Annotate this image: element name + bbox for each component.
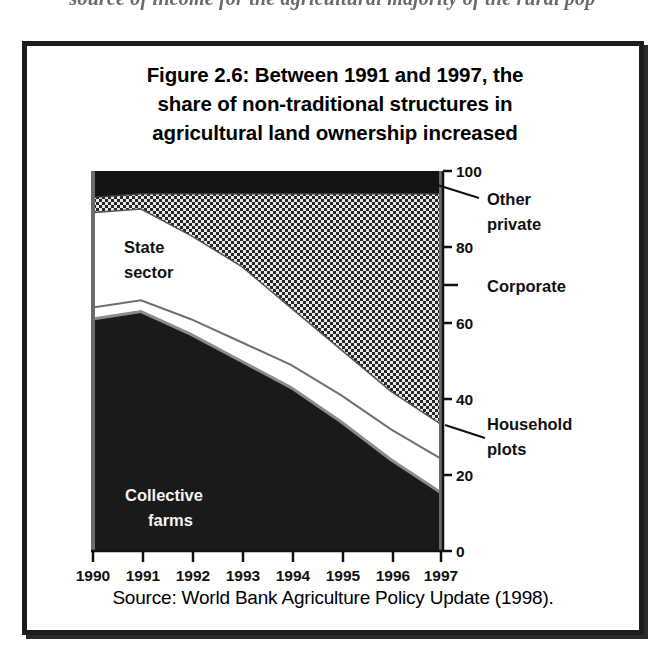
label-state-sector-line-1: State <box>124 238 164 256</box>
label-other-private: Other private <box>487 190 541 233</box>
page-bleed-text: source of income for the agricultural ma… <box>0 0 665 13</box>
y-axis-label-100: 100 <box>456 163 482 180</box>
chart-svg: 0 20 40 60 80 100 1990 1991 <box>27 46 639 630</box>
label-household-plots: Household plots <box>487 415 572 458</box>
x-axis-label-1995: 1995 <box>326 567 361 584</box>
label-other-private-line-2: private <box>487 215 541 233</box>
x-axis-label-1992: 1992 <box>176 567 210 584</box>
y-axis-label-80: 80 <box>456 239 473 256</box>
x-axis-label-1991: 1991 <box>126 567 161 584</box>
label-household-plots-line-1: Household <box>487 415 572 433</box>
label-corporate: Corporate <box>487 277 566 295</box>
y-axis-label-20: 20 <box>456 467 473 484</box>
label-collective-farms-line-1: Collective <box>125 486 203 504</box>
leader-line-household-plots <box>445 425 485 438</box>
label-other-private-line-1: Other <box>487 190 532 208</box>
x-axis-label-1990: 1990 <box>76 567 110 584</box>
x-axis-label-1993: 1993 <box>226 567 261 584</box>
y-axis-label-0: 0 <box>456 543 465 560</box>
y-axis-label-60: 60 <box>456 315 473 332</box>
x-axis-label-1994: 1994 <box>276 567 311 584</box>
figure-frame: Figure 2.6: Between 1991 and 1997, the s… <box>22 41 644 635</box>
stacked-area-chart: 0 20 40 60 80 100 1990 1991 <box>27 46 639 630</box>
label-state-sector-line-2: sector <box>124 263 174 281</box>
y-axis-tick-labels: 0 20 40 60 80 100 <box>456 163 482 560</box>
label-household-plots-line-2: plots <box>487 440 526 458</box>
y-axis-label-40: 40 <box>456 391 473 408</box>
x-axis-ticks <box>93 551 441 562</box>
label-collective-farms-line-2: farms <box>148 511 193 529</box>
plot-left-wall <box>91 171 95 551</box>
y-axis-ticks <box>443 171 458 551</box>
figure-source-caption: Source: World Bank Agriculture Policy Up… <box>27 586 639 610</box>
x-axis-label-1997: 1997 <box>424 567 458 584</box>
x-axis-tick-labels: 1990 1991 1992 1993 1994 1995 1996 1997 <box>76 567 458 584</box>
x-axis-label-1996: 1996 <box>376 567 411 584</box>
